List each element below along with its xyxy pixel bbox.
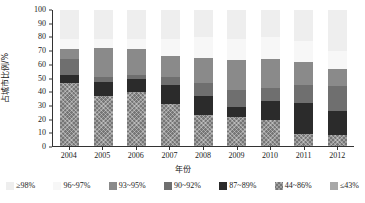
legend-item[interactable]: 44~86% (275, 182, 312, 190)
stacked-bar[interactable] (294, 10, 313, 146)
legend-swatch-icon (53, 182, 61, 190)
bar-segment (94, 82, 113, 96)
bar-segment (94, 39, 113, 49)
x-tick: 2008 (188, 147, 218, 159)
bar-segment (328, 86, 347, 110)
stacked-bar[interactable] (161, 10, 180, 146)
bar-segment (261, 59, 280, 88)
x-tick-label: 2008 (188, 151, 218, 160)
y-tick-label: 0 (42, 143, 46, 151)
bar-segment (60, 39, 79, 50)
x-tick-mark (102, 147, 103, 150)
x-tick-label: 2009 (222, 151, 252, 160)
bar-slot (255, 10, 285, 146)
bar-segment (294, 85, 313, 103)
bar-segment (328, 111, 347, 135)
legend-item-label: 96~97% (63, 182, 90, 190)
legend-swatch-icon (6, 182, 14, 190)
x-tick: 2009 (222, 147, 252, 159)
legend-item[interactable]: 87~89% (219, 182, 256, 190)
stacked-bar[interactable] (227, 10, 246, 146)
legend-item[interactable]: 93~95% (109, 182, 146, 190)
bar-group (53, 10, 354, 146)
legend-item[interactable]: 90~92% (164, 182, 201, 190)
legend-item-label: ≥98% (16, 182, 35, 190)
x-tick: 2012 (322, 147, 352, 159)
x-tick-label: 2006 (121, 151, 151, 160)
bar-segment (60, 83, 79, 146)
bar-segment (127, 10, 146, 39)
legend-item[interactable]: 96~97% (53, 182, 90, 190)
legend-item-label: 93~95% (119, 182, 146, 190)
bar-segment (227, 60, 246, 90)
x-tick: 2011 (289, 147, 319, 159)
x-tick-mark (270, 147, 271, 150)
y-tick-label: 60 (38, 61, 46, 69)
bar-segment (328, 135, 347, 146)
legend-item-label: ≤43% (340, 182, 359, 190)
x-tick-mark (136, 147, 137, 150)
bar-slot (289, 10, 319, 146)
plot-area (52, 10, 354, 147)
stacked-bar[interactable] (94, 10, 113, 146)
bar-segment (194, 37, 213, 57)
stacked-bar[interactable] (127, 10, 146, 146)
bar-segment (94, 96, 113, 146)
bar-segment (161, 39, 180, 57)
x-tick: 2007 (154, 147, 184, 159)
x-tick-mark (169, 147, 170, 150)
bar-segment (194, 58, 213, 84)
legend-swatch-icon (330, 182, 338, 190)
stacked-bar[interactable] (261, 10, 280, 146)
x-tick-mark (69, 147, 70, 150)
x-tick: 2004 (54, 147, 84, 159)
x-axis: 200420052006200720082009201020112012 (52, 147, 354, 159)
legend-item[interactable]: ≤43% (330, 182, 359, 190)
bar-segment (194, 83, 213, 95)
stacked-bar[interactable] (60, 10, 79, 146)
legend: ≥98%96~97%93~95%90~92%87~89%44~86%≤43% (6, 182, 359, 190)
bar-segment (261, 37, 280, 59)
x-tick-mark (304, 147, 305, 150)
stacked-bar[interactable] (194, 10, 213, 146)
bar-segment (294, 134, 313, 146)
x-tick-mark (203, 147, 204, 150)
y-tick-label: 10 (38, 129, 46, 137)
bar-segment (194, 115, 213, 146)
legend-item-label: 87~89% (229, 182, 256, 190)
bar-slot (155, 10, 185, 146)
bar-segment (127, 79, 146, 91)
bar-segment (60, 59, 79, 75)
y-tick-label: 100 (34, 6, 46, 14)
bar-segment (60, 75, 79, 83)
bar-segment (194, 96, 213, 115)
bar-segment (261, 101, 280, 120)
stacked-bar-chart: 1009080706050403020100 占城市比例/% 200420052… (0, 0, 365, 203)
x-tick-label: 2010 (255, 151, 285, 160)
bar-segment (127, 49, 146, 75)
x-tick-mark (337, 147, 338, 150)
y-tick-label: 70 (38, 47, 46, 55)
x-tick-mark (237, 147, 238, 150)
bar-segment (161, 56, 180, 76)
bar-segment (328, 10, 347, 51)
bar-slot (88, 10, 118, 146)
bar-slot (188, 10, 218, 146)
y-tick-label: 30 (38, 102, 46, 110)
bar-segment (161, 77, 180, 85)
legend-item[interactable]: ≥98% (6, 182, 35, 190)
bar-segment (328, 51, 347, 69)
bar-segment (227, 10, 246, 39)
stacked-bar[interactable] (328, 10, 347, 146)
bar-segment (161, 10, 180, 39)
legend-item-label: 44~86% (285, 182, 312, 190)
legend-swatch-icon (164, 182, 172, 190)
bar-segment (261, 120, 280, 146)
bar-segment (294, 41, 313, 61)
bar-segment (194, 10, 213, 37)
y-tick-label: 90 (38, 20, 46, 28)
bar-slot (55, 10, 85, 146)
bar-segment (127, 39, 146, 50)
y-tick-label: 40 (38, 88, 46, 96)
x-tick-label: 2004 (54, 151, 84, 160)
